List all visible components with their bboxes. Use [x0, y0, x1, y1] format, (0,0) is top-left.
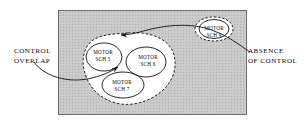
- motor-sch5-label: MOTOR SCH 5: [86, 49, 120, 62]
- motor-sch9-line2: SCH 9: [197, 32, 231, 39]
- absence-of-control-line2: OF CONTROL: [248, 57, 297, 67]
- diagram-canvas: CONTROL OVERLAP ABSENCE OF CONTROL MOTOR…: [0, 0, 304, 130]
- absence-of-control-line1: ABSENCE: [248, 47, 297, 57]
- motor-sch9-label: MOTOR SCH 9: [197, 25, 231, 38]
- control-overlap-line2: OVERLAP: [14, 57, 51, 67]
- motor-sch7-label: MOTOR SCH 7: [105, 79, 139, 92]
- control-overlap-label: CONTROL OVERLAP: [14, 47, 51, 66]
- motor-sch6-line2: SCH 6: [131, 61, 165, 68]
- motor-sch6-label: MOTOR SCH 6: [131, 54, 165, 67]
- motor-sch5-line2: SCH 5: [86, 56, 120, 63]
- motor-sch7-line2: SCH 7: [105, 86, 139, 93]
- absence-of-control-label: ABSENCE OF CONTROL: [248, 47, 297, 66]
- control-overlap-line1: CONTROL: [14, 47, 51, 57]
